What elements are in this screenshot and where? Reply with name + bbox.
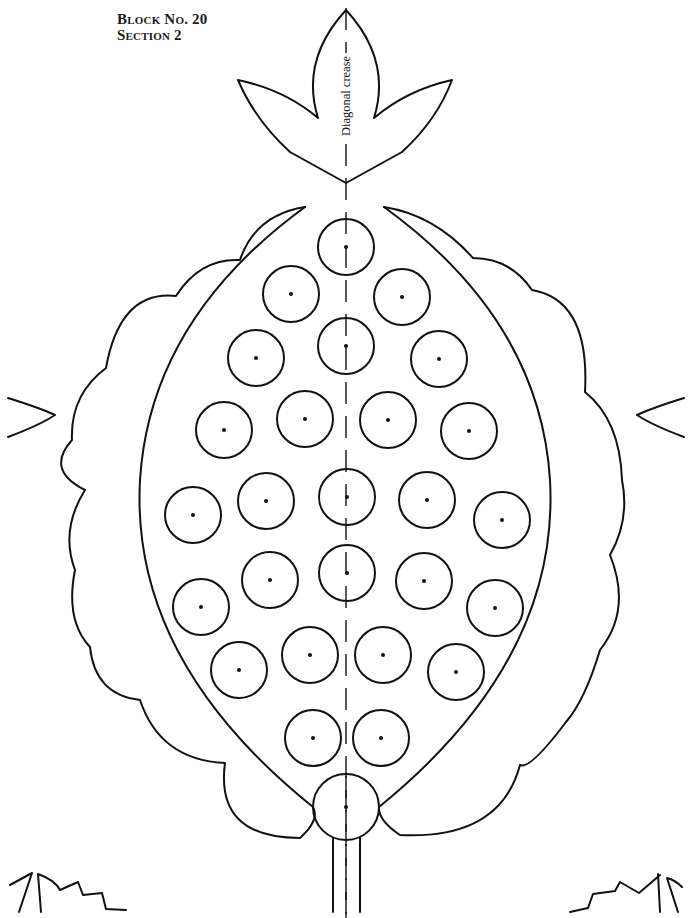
crease-label-text: Diagonal crease [339,53,354,139]
right-inner-curve [379,207,551,807]
left-outer-body [61,207,315,838]
seed-circles [165,219,530,766]
left-grass [10,873,126,912]
right-side-notch [637,398,684,437]
crease-label: Diagonal crease [337,30,355,162]
right-grass [570,874,682,912]
left-side-notch [8,398,55,437]
